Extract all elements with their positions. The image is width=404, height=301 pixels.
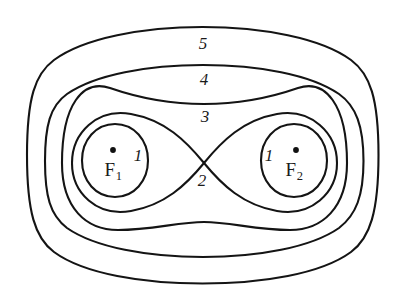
level-label-5: 5 (199, 35, 208, 52)
cassini-ovals-figure: F1 F2 1 1 2 3 4 5 (0, 0, 404, 301)
focus-label-f1-text: F (105, 159, 116, 180)
focus-label-f1: F1 (105, 160, 122, 179)
level-label-1-right: 1 (265, 147, 274, 164)
level-label-1-left: 1 (134, 147, 143, 164)
focus-label-f2: F2 (286, 160, 303, 179)
focus-label-f1-subscript: 1 (116, 169, 122, 183)
curve-level-4 (45, 65, 364, 257)
level-label-3: 3 (201, 108, 210, 125)
focus-dot-f2 (293, 147, 299, 153)
level-label-4: 4 (200, 71, 209, 88)
focus-label-f2-text: F (286, 159, 297, 180)
level-label-2: 2 (198, 172, 207, 189)
focus-dot-f1 (110, 147, 116, 153)
focus-label-f2-subscript: 2 (297, 169, 303, 183)
